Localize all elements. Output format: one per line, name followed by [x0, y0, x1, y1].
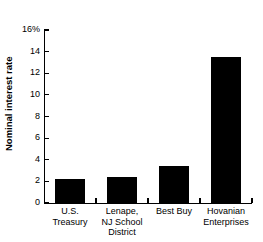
- y-axis-tick-label: 14: [0, 47, 40, 57]
- bar: [107, 177, 137, 203]
- y-axis-tick: [44, 51, 49, 52]
- y-axis-tick-label-text: 2: [0, 176, 40, 185]
- y-axis-tick-label-text: 14: [0, 47, 40, 56]
- y-axis-tick-label-text: 6: [0, 133, 40, 142]
- x-axis-tick: [251, 198, 252, 203]
- x-axis-label: Best Buy: [144, 206, 204, 217]
- y-axis-tick: [44, 29, 49, 30]
- y-axis-tick-label: 0: [0, 198, 40, 208]
- y-axis-tick-label: 8: [0, 112, 40, 122]
- y-axis-tick: [44, 138, 49, 139]
- y-axis-tick-label: 2: [0, 176, 40, 186]
- y-axis-tick-label-text: 12: [0, 68, 40, 77]
- y-axis-tick: [44, 116, 49, 117]
- y-axis-tick-label: 12: [0, 68, 40, 78]
- y-axis-tick-label: 4: [0, 155, 40, 165]
- x-axis-label: Hovanian Enterprises: [196, 206, 256, 227]
- y-axis-tick: [44, 94, 49, 95]
- y-axis-tick-label: 10: [0, 90, 40, 100]
- y-axis-tick: [44, 181, 49, 182]
- y-axis-tick-label-text: 4: [0, 155, 40, 164]
- y-axis-tick-label-text: 0: [0, 198, 40, 207]
- x-axis-label: U.S. Treasury: [40, 206, 100, 227]
- y-axis-tick-label-text: 16%: [0, 25, 40, 34]
- bar: [211, 57, 241, 203]
- bar: [55, 179, 85, 203]
- y-axis-tick-label: 16%: [0, 25, 40, 35]
- y-axis-tick: [44, 73, 49, 74]
- y-axis-tick: [44, 202, 49, 203]
- x-axis-tick: [95, 198, 96, 203]
- y-axis-tick-label: 6: [0, 133, 40, 143]
- bar-chart: Nominal interest rate 0246810121416% U.S…: [0, 0, 263, 242]
- bar: [159, 166, 189, 203]
- x-axis-tick: [199, 198, 200, 203]
- x-axis-tick: [147, 198, 148, 203]
- y-axis-tick-label-text: 10: [0, 90, 40, 99]
- y-axis-tick-label-text: 8: [0, 112, 40, 121]
- y-axis-tick: [44, 159, 49, 160]
- x-axis-label: Lenape, NJ School District: [92, 206, 152, 238]
